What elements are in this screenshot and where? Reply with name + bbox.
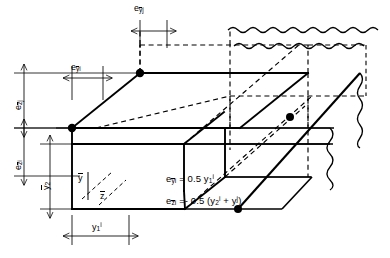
dimension-lines — [14, 20, 176, 245]
label-e-y-bar-i: eyi — [71, 63, 81, 73]
label-e-z-bar-i: ezi — [14, 160, 24, 170]
label-axis-z-bar: z — [100, 192, 105, 201]
equation-e-y-i: eyi = 0.5 y1i — [166, 174, 214, 185]
node-point-mid — [286, 113, 294, 121]
equation-e-z-i: ezi =- 0.5 (y2i + yj) — [166, 196, 241, 207]
label-y2: y2 — [42, 182, 52, 190]
wavy-break-line-top — [228, 28, 378, 33]
label-y1-i: y1i — [92, 222, 102, 233]
hidden-dashed-lines — [72, 28, 366, 209]
hidden-dashed-grid — [140, 28, 366, 96]
label-e-z-bar-j: ezj — [14, 100, 24, 110]
wavy-break-line-upper — [234, 44, 364, 49]
diagonal-member — [238, 73, 360, 209]
label-e-y-bar-j: eyj — [134, 4, 144, 14]
diagram-geometry — [0, 0, 390, 258]
eccentricity-diagram: eyj eyi ezj ezi y2 y1i y z eyi = 0.5 y1i… — [0, 0, 390, 258]
label-axis-y-bar: y — [78, 174, 83, 183]
